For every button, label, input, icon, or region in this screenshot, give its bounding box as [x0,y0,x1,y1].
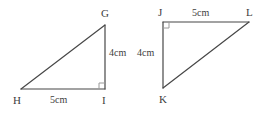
vertex-label-l: L [246,7,253,18]
measure-label-gi: 4cm [109,48,126,58]
segment-hg [21,25,105,89]
measure-label-jl: 5cm [192,8,209,18]
triangles-svg [0,0,271,122]
vertex-label-h: H [13,95,21,106]
right-angle-marker-j [163,22,169,28]
vertex-label-i: I [102,95,106,106]
vertex-label-k: K [159,94,167,105]
triangle-jkl-shape [163,22,249,88]
measure-label-hi: 5cm [50,95,67,105]
triangle-ghi-shape [21,25,105,89]
geometry-figure-canvas: G H I 4cm 5cm J K L 4cm 5cm [0,0,271,122]
right-angle-marker-i [99,83,105,89]
measure-label-jk: 4cm [137,48,154,58]
vertex-label-g: G [101,8,109,19]
vertex-label-j: J [158,7,162,18]
segment-kl [163,22,249,88]
